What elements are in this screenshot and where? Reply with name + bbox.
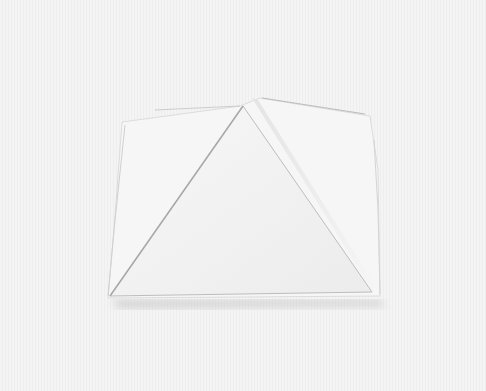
folded-paper-illustration bbox=[0, 0, 486, 391]
photo-scene bbox=[0, 0, 486, 391]
paper-shadow bbox=[112, 300, 386, 308]
